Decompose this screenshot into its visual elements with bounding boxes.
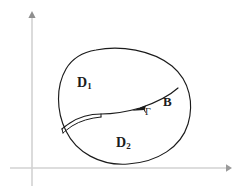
figure-canvas: D1 D2 B Γ <box>0 0 239 190</box>
gamma-arc-upper <box>62 88 178 129</box>
region-label-d1: D1 <box>77 76 92 91</box>
boundary-label-b: B <box>163 95 172 108</box>
axes-group <box>10 11 232 186</box>
gamma-arc-lower <box>63 117 101 133</box>
gamma-arc-group <box>62 88 178 133</box>
region-label-d2-sub: 2 <box>126 141 131 151</box>
gamma-slit-cap <box>62 129 63 133</box>
diagram-svg <box>0 0 239 190</box>
x-axis-arrowhead <box>226 164 232 172</box>
region-label-d2: D2 <box>116 136 131 151</box>
y-axis-arrowhead <box>28 11 35 18</box>
curve-label-gamma: Γ <box>145 107 151 117</box>
region-label-d1-sub: 1 <box>87 81 92 91</box>
region-label-d2-base: D <box>116 135 126 150</box>
region-label-d1-base: D <box>77 75 87 90</box>
